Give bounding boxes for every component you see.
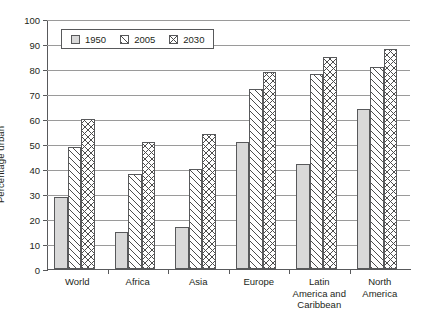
bar-group <box>289 19 350 269</box>
bar-1950-world <box>54 197 68 270</box>
bar-1950-africa <box>115 232 129 270</box>
bar-chart: Percentage urban 0102030405060708090100 … <box>0 0 423 329</box>
x-axis-tick-mark <box>168 270 169 274</box>
y-axis-tick-label: 70 <box>29 90 40 101</box>
legend-item-2005: 2005 <box>120 34 155 45</box>
y-axis-tick-label: 40 <box>29 165 40 176</box>
x-axis-tick-label-line: Africa <box>108 276 169 288</box>
x-axis-tick-label-asia: Asia <box>168 276 229 288</box>
x-axis-tick-label-line: Caribbean <box>289 299 350 311</box>
y-axis-tick-label: 0 <box>35 265 40 276</box>
x-axis-tick-label-world: World <box>47 276 108 288</box>
y-axis-tick-label: 60 <box>29 115 40 126</box>
y-axis-tick-label: 30 <box>29 190 40 201</box>
y-axis-tick-label: 10 <box>29 240 40 251</box>
legend: 195020052030 <box>61 29 214 49</box>
x-axis-tick-label-line: Europe <box>229 276 290 288</box>
bar-2005-latin-america-and-caribbean <box>310 74 324 269</box>
legend-item-2030: 2030 <box>169 34 204 45</box>
bar-2030-north-america <box>384 49 398 269</box>
x-axis-tick-mark <box>350 270 351 274</box>
x-axis-tick-label-line: Latin <box>289 276 350 288</box>
x-axis-tick-label-north-america: NorthAmerica <box>350 276 411 299</box>
x-axis-tick-mark <box>229 270 230 274</box>
bar-group <box>168 19 229 269</box>
bar-group <box>229 19 290 269</box>
plot-area: 0102030405060708090100 <box>47 20 410 270</box>
legend-item-label: 2005 <box>134 34 155 45</box>
bar-1950-europe <box>236 142 250 270</box>
y-axis-tick-mark <box>43 270 47 271</box>
legend-swatch-solid <box>71 35 80 44</box>
bar-group <box>47 19 108 269</box>
legend-item-label: 2030 <box>183 34 204 45</box>
legend-item-1950: 1950 <box>71 34 106 45</box>
x-axis-tick-label-europe: Europe <box>229 276 290 288</box>
bar-1950-asia <box>175 227 189 270</box>
y-axis-tick-label: 20 <box>29 215 40 226</box>
y-axis-tick-label: 100 <box>24 15 40 26</box>
x-axis-tick-label-line: World <box>47 276 108 288</box>
bar-2005-europe <box>249 89 263 269</box>
bar-2005-asia <box>189 169 203 269</box>
y-axis-tick-label: 90 <box>29 40 40 51</box>
bar-1950-latin-america-and-caribbean <box>296 164 310 269</box>
x-axis-tick-label-line: North <box>350 276 411 288</box>
y-axis-tick-label: 50 <box>29 140 40 151</box>
bar-group <box>108 19 169 269</box>
bar-2030-africa <box>142 142 156 270</box>
x-axis-tick-mark <box>108 270 109 274</box>
bar-2005-africa <box>128 174 142 269</box>
y-axis-tick-label: 80 <box>29 65 40 76</box>
bar-2030-world <box>81 119 95 269</box>
x-axis-tick-label-line: America <box>350 288 411 300</box>
bar-2030-latin-america-and-caribbean <box>323 57 337 270</box>
bar-2005-world <box>68 147 82 270</box>
x-axis-tick-label-line: America and <box>289 288 350 300</box>
bar-group <box>350 19 411 269</box>
x-axis-tick-label-line: Asia <box>168 276 229 288</box>
legend-item-label: 1950 <box>85 34 106 45</box>
bar-1950-north-america <box>357 109 371 269</box>
legend-swatch-diagonal <box>120 35 129 44</box>
x-axis-tick-label-africa: Africa <box>108 276 169 288</box>
bar-2030-asia <box>202 134 216 269</box>
x-axis-tick-mark <box>289 270 290 274</box>
bar-2005-north-america <box>370 67 384 270</box>
bar-2030-europe <box>263 72 277 270</box>
x-axis-tick-label-latin-america-and-caribbean: LatinAmerica andCaribbean <box>289 276 350 311</box>
legend-swatch-cross <box>169 35 178 44</box>
